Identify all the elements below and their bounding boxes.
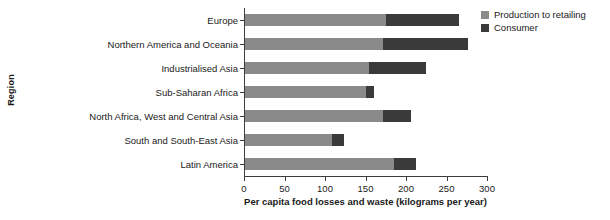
bar-row: Europe [244, 8, 487, 32]
bar-row: Industrialised Asia [244, 56, 487, 80]
x-axis-tick-label: 100 [317, 183, 333, 194]
bar-row: South and South-East Asia [244, 128, 487, 152]
x-axis-tick-label: 300 [479, 183, 495, 194]
plot-area: EuropeNorthern America and OceaniaIndust… [244, 8, 487, 176]
legend-item: Consumer [481, 22, 586, 33]
x-axis-tick [244, 176, 245, 181]
x-axis-title: Per capita food losses and waste (kilogr… [244, 196, 487, 207]
x-axis-tick-label: 200 [398, 183, 414, 194]
bar-segment-production [245, 62, 369, 74]
category-label: Europe [207, 8, 238, 32]
bar-segment-consumer [366, 86, 374, 98]
category-label: Sub-Saharan Africa [156, 80, 238, 104]
bar-segment-production [245, 134, 332, 146]
category-label: Latin America [180, 152, 238, 176]
chart-legend: Production to retailingConsumer [481, 9, 586, 35]
bar-row: Northern America and Oceania [244, 32, 487, 56]
legend-swatch-icon [481, 24, 489, 32]
legend-swatch-icon [481, 11, 489, 19]
bar-segment-consumer [383, 110, 411, 122]
bar-segment-consumer [383, 38, 468, 50]
x-axis-tick [325, 176, 326, 181]
y-axis-tick [240, 44, 244, 45]
stacked-bar [245, 86, 374, 98]
category-label: Northern America and Oceania [108, 32, 238, 56]
bar-row: Sub-Saharan Africa [244, 80, 487, 104]
bar-chart: Region EuropeNorthern America and Oceani… [0, 0, 610, 220]
bar-segment-production [245, 110, 383, 122]
bar-segment-production [245, 158, 394, 170]
y-axis-tick [240, 92, 244, 93]
bar-segment-consumer [369, 62, 426, 74]
bar-row: Latin America [244, 152, 487, 176]
stacked-bar [245, 14, 459, 26]
bar-segment-production [245, 14, 386, 26]
y-axis-title-label: Region [6, 74, 16, 106]
stacked-bar [245, 38, 468, 50]
bar-row: North Africa, West and Central Asia [244, 104, 487, 128]
legend-label: Production to retailing [494, 9, 586, 20]
x-axis-tick-label: 0 [241, 183, 246, 194]
category-label: South and South-East Asia [124, 128, 238, 152]
stacked-bar [245, 110, 411, 122]
y-axis-tick [240, 20, 244, 21]
x-axis-tick-label: 50 [279, 183, 290, 194]
x-axis-tick [285, 176, 286, 181]
x-axis-tick [406, 176, 407, 181]
bar-segment-production [245, 38, 383, 50]
y-axis-tick [240, 116, 244, 117]
y-axis-title: Region [2, 0, 20, 180]
bar-segment-production [245, 86, 366, 98]
x-axis-tick-label: 250 [439, 183, 455, 194]
category-label: Industrialised Asia [161, 56, 238, 80]
y-axis-tick [240, 164, 244, 165]
y-axis-tick [240, 68, 244, 69]
y-axis-tick [240, 140, 244, 141]
bar-segment-consumer [332, 134, 343, 146]
bar-segment-consumer [386, 14, 459, 26]
legend-label: Consumer [494, 22, 538, 33]
legend-item: Production to retailing [481, 9, 586, 20]
x-axis-tick-label: 150 [358, 183, 374, 194]
stacked-bar [245, 158, 416, 170]
category-label: North Africa, West and Central Asia [89, 104, 238, 128]
x-axis-tick [447, 176, 448, 181]
bar-segment-consumer [394, 158, 416, 170]
stacked-bar [245, 62, 426, 74]
x-axis-tick [366, 176, 367, 181]
x-axis-tick [487, 176, 488, 181]
stacked-bar [245, 134, 344, 146]
